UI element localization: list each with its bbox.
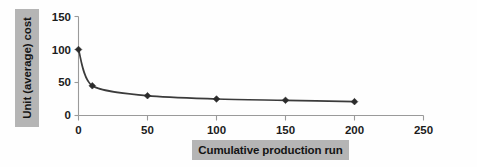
plot-area: 150 100 50 0 0 50 100 [0,0,477,167]
x-tick-label: 250 [414,124,433,136]
y-tick-label: 150 [52,11,71,23]
x-tick-labels: 0 50 100 150 200 250 [75,124,433,136]
data-point [213,96,220,103]
data-point [144,92,151,99]
y-tick-label: 0 [65,109,71,121]
y-tick-label: 100 [52,44,71,56]
data-curve [79,50,355,102]
x-tick-label: 200 [345,124,364,136]
chart-figure: Unit (average) cost Cumulative productio… [0,0,477,167]
y-tick-marks [75,17,79,116]
data-point [351,98,358,105]
data-point [282,97,289,104]
data-markers [75,46,358,105]
x-tick-label: 0 [75,124,81,136]
x-tick-label: 100 [207,124,226,136]
x-tick-label: 150 [276,124,295,136]
data-point [75,46,82,53]
y-tick-label: 50 [58,76,71,88]
x-tick-label: 50 [141,124,154,136]
y-tick-labels: 150 100 50 0 [52,11,71,121]
x-tick-marks [79,116,424,121]
